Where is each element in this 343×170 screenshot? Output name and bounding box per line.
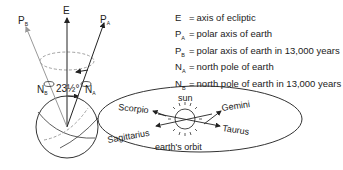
legend-text: axis of ecliptic (197, 12, 256, 28)
label-sun: sun (178, 93, 193, 103)
label-pa: PA (100, 14, 111, 26)
label-taurus: Taurus (222, 123, 251, 137)
legend-text: north pole of earth in 13,000 years (197, 78, 342, 94)
label-nb: NB (37, 84, 48, 96)
legend-text: polar axis of earth (197, 28, 273, 44)
legend-text: polar axis of earth in 13,000 years (197, 45, 340, 61)
legend-row-pb: PB = polar axis of earth in 13,000 years (175, 45, 341, 61)
label-e: E (63, 5, 70, 16)
legend-row-e: E = axis of ecliptic (175, 12, 341, 28)
legend-text: north pole of earth (197, 61, 274, 77)
label-gemini: Gemini (221, 99, 251, 113)
label-pb: PB (18, 15, 29, 27)
label-scorpio: Scorpio (118, 102, 149, 115)
legend-row-nb: NB = north pole of earth in 13,000 years (175, 78, 341, 94)
legend: E = axis of ecliptic PA = polar axis of … (175, 12, 341, 94)
legend-row-na: NA = north pole of earth (175, 61, 341, 77)
label-na: NA (85, 84, 96, 96)
label-orbit: earth's orbit (155, 142, 202, 152)
label-angle: 23½° (56, 83, 79, 94)
legend-row-pa: PA = polar axis of earth (175, 28, 341, 44)
